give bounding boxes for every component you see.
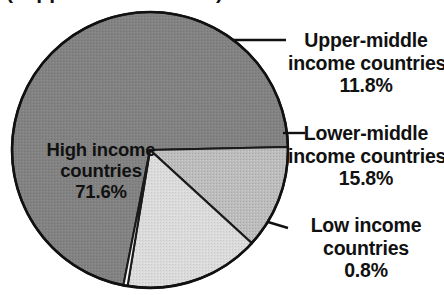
slice-label-upper-middle-income-line2: income countries <box>288 52 444 75</box>
slice-label-lower-middle-income: Lower-middle income countries 15.8% <box>288 122 444 190</box>
slice-label-high-income: High income countries 71.6% <box>36 140 166 203</box>
slice-value-low-income: 0.8% <box>291 259 441 282</box>
slice-label-lower-middle-income-line2: income countries <box>288 145 444 168</box>
slice-value-lower-middle-income: 15.8% <box>288 167 444 190</box>
slice-label-high-income-line1: High income <box>36 140 166 161</box>
slice-label-low-income-line2: countries <box>291 237 441 260</box>
slice-label-low-income: Low income countries 0.8% <box>291 214 441 282</box>
slice-label-high-income-line2: countries <box>36 161 166 182</box>
slice-label-lower-middle-income-line1: Lower-middle <box>288 122 444 145</box>
slice-value-high-income: 71.6% <box>36 182 166 203</box>
leader-line-low-income <box>268 222 288 228</box>
chart-figure: (clipped above frame) <box>0 0 444 295</box>
slice-value-upper-middle-income: 11.8% <box>288 74 444 97</box>
slice-label-low-income-line1: Low income <box>291 214 441 237</box>
slice-label-upper-middle-income: Upper-middle income countries 11.8% <box>288 29 444 97</box>
slice-label-upper-middle-income-line1: Upper-middle <box>288 29 444 52</box>
